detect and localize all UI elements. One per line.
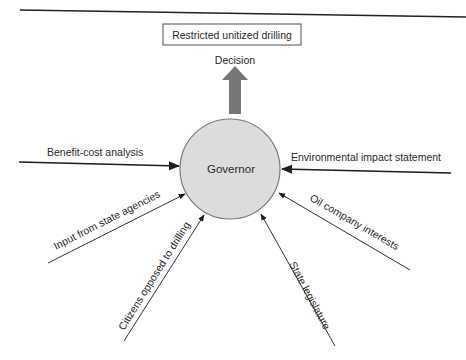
input-label: Benefit-cost analysis bbox=[47, 146, 143, 158]
input-state-legislature: State legislature bbox=[261, 214, 335, 346]
input-label: Citizens opposed to drilling bbox=[116, 219, 193, 332]
input-label: Input from state agencies bbox=[51, 188, 162, 252]
arrow-icon bbox=[279, 193, 410, 270]
outcome-label: Restricted unitized drilling bbox=[172, 29, 292, 41]
input-benefit-cost: Benefit-cost analysis bbox=[19, 146, 179, 166]
governor-decision-diagram: Restricted unitized drilling Decision Go… bbox=[0, 0, 466, 360]
outcome-box: Restricted unitized drilling bbox=[163, 24, 301, 45]
input-environmental: Environmental impact statement bbox=[282, 151, 451, 173]
input-label: Oil company interests bbox=[308, 191, 401, 252]
decision-arrow-icon bbox=[222, 66, 248, 114]
arrow-icon bbox=[282, 169, 451, 173]
input-oil-company: Oil company interests bbox=[279, 191, 410, 270]
arrow-icon bbox=[124, 215, 204, 341]
input-label: State legislature bbox=[287, 259, 333, 331]
arrow-icon bbox=[19, 162, 179, 166]
input-label: Environmental impact statement bbox=[291, 151, 441, 163]
input-citizens: Citizens opposed to drilling bbox=[116, 215, 204, 341]
decision-caption: Decision bbox=[215, 54, 255, 66]
governor-label: Governor bbox=[207, 163, 255, 175]
top-rule bbox=[20, 10, 466, 17]
